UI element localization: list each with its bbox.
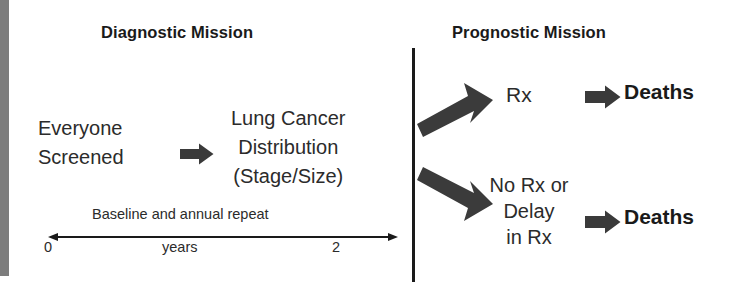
axis-label-years: years [162, 239, 197, 255]
block-right-arrow-icon-screened-to-distribution [180, 143, 214, 169]
timeline-axis-group: Baseline and annual repeat years 0 2 [40, 203, 405, 263]
thick-diagonal-up-arrow-icon-branch-1 [414, 78, 496, 144]
double-headed-arrow-icon-timeline [48, 229, 398, 247]
label-deaths-untreated: Deaths [624, 205, 694, 229]
block-right-arrow-icon-no-rx-to-deaths [585, 210, 621, 238]
label-lung-cancer-distribution-line1: Lung Cancer [231, 104, 346, 133]
label-no-rx-line3: in Rx [476, 224, 582, 250]
label-everyone-screened-line2: Screened [38, 143, 124, 172]
label-deaths-treated: Deaths [624, 80, 694, 104]
label-rx: Rx [506, 80, 532, 109]
axis-tick-label-end: 2 [332, 239, 340, 255]
label-no-rx-or-delay-in-rx: No Rx or Delay in Rx [476, 172, 582, 250]
page-title-prognostic-mission: Prognostic Mission [452, 23, 606, 42]
label-no-rx-line1: No Rx or [476, 172, 582, 198]
axis-label-baseline-and-annual-repeat: Baseline and annual repeat [92, 206, 269, 222]
page-title-diagnostic-mission: Diagnostic Mission [101, 23, 253, 42]
label-lung-cancer-distribution: Lung Cancer Distribution (Stage/Size) [231, 104, 346, 191]
label-lung-cancer-distribution-line2: Distribution [231, 133, 346, 162]
block-right-arrow-icon-rx-to-deaths [585, 85, 621, 113]
label-no-rx-line2: Delay [476, 198, 582, 224]
axis-tick-label-start: 0 [44, 239, 52, 255]
diagram-canvas: Diagnostic Mission Everyone Screened Lun… [0, 0, 740, 300]
label-lung-cancer-distribution-line3: (Stage/Size) [231, 162, 346, 191]
page-edge-bar [0, 0, 9, 276]
label-everyone-screened-line1: Everyone [38, 114, 124, 143]
label-everyone-screened: Everyone Screened [38, 114, 124, 172]
